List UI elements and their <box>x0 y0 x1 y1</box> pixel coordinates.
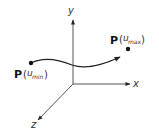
start-point-label: P ( u min ) <box>14 68 48 81</box>
y-axis-label: y <box>67 5 75 16</box>
end-symbol: P <box>110 34 118 47</box>
end-point-label: P ( u max ) <box>110 33 145 47</box>
parametric-curve <box>31 57 120 67</box>
x-axis-label: x <box>132 78 139 89</box>
start-sub: min <box>32 73 44 80</box>
parametric-curve-diagram: y x z P ( u min ) P ( u max ) <box>0 0 159 137</box>
start-symbol: P <box>14 68 22 81</box>
end-point <box>126 47 130 51</box>
z-axis <box>38 84 73 120</box>
start-point <box>29 61 33 65</box>
start-close-paren: ) <box>44 69 48 80</box>
z-axis-label: z <box>30 119 37 130</box>
end-close-paren: ) <box>141 34 145 45</box>
end-sub: max <box>128 38 142 45</box>
